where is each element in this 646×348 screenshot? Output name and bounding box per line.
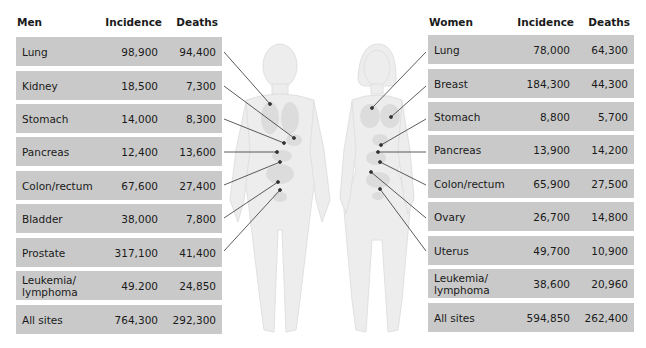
site-name: Uterus: [434, 245, 469, 257]
table-row: Bladder 38,000 7,800: [16, 204, 222, 233]
deaths-value: 44,300: [591, 78, 628, 90]
table-row: Ovary 26,700 14,800: [428, 202, 634, 231]
site-name: Lung: [434, 44, 460, 56]
site-name: All sites: [434, 312, 475, 324]
table-row-total: All sites 594,850 262,400: [428, 303, 634, 332]
incidence-value: 594,850: [527, 312, 570, 324]
incidence-value: 67,600: [121, 180, 158, 192]
site-name: Colon/rectum: [434, 178, 505, 190]
site-name: Colon/rectum: [22, 180, 93, 192]
women-header-site: Women: [429, 16, 473, 28]
site-name: Bladder: [22, 213, 63, 225]
site-name: Pancreas: [22, 146, 69, 158]
women-table-header: Women Incidence Deaths: [428, 16, 634, 32]
incidence-value: 98,900: [121, 46, 158, 58]
site-name: Leukemia/ lymphoma: [434, 272, 494, 296]
table-row: Lung 78,000 64,300: [428, 35, 634, 64]
deaths-value: 27,400: [179, 180, 216, 192]
deaths-value: 262,400: [585, 312, 628, 324]
table-row: Stomach 14,000 8,300: [16, 104, 222, 133]
site-name: Prostate: [22, 247, 65, 259]
female-figure: [340, 44, 414, 332]
male-figure: [230, 44, 330, 332]
table-row: Pancreas 12,400 13,600: [16, 137, 222, 166]
deaths-value: 5,700: [598, 111, 628, 123]
table-row: Pancreas 13,900 14,200: [428, 135, 634, 164]
deaths-value: 24,850: [179, 280, 216, 292]
site-name: Pancreas: [434, 144, 481, 156]
deaths-value: 94,400: [179, 46, 216, 58]
site-name: Breast: [434, 78, 468, 90]
incidence-value: 13,900: [533, 144, 570, 156]
incidence-value: 78,000: [533, 44, 570, 56]
table-row: Prostate 317,100 41,400: [16, 238, 222, 267]
site-name: Stomach: [22, 113, 68, 125]
incidence-value: 184,300: [527, 78, 570, 90]
site-name: Kidney: [22, 80, 58, 92]
site-name: All sites: [22, 314, 63, 326]
women-header-deaths: Deaths: [588, 16, 630, 28]
incidence-value: 26,700: [533, 211, 570, 223]
site-name: Ovary: [434, 211, 465, 223]
table-row: Colon/rectum 67,600 27,400: [16, 171, 222, 200]
deaths-value: 7,800: [186, 213, 216, 225]
deaths-value: 8,300: [186, 113, 216, 125]
incidence-value: 8,800: [540, 111, 570, 123]
incidence-value: 18,500: [121, 80, 158, 92]
table-row: Uterus 49,700 10,900: [428, 236, 634, 265]
men-table-header: Men Incidence Deaths: [16, 16, 222, 32]
table-row: Lung 98,900 94,400: [16, 37, 222, 66]
site-name: Leukemia/ lymphoma: [22, 274, 82, 298]
men-header-site: Men: [17, 16, 42, 28]
site-name: Lung: [22, 46, 48, 58]
table-row: Colon/rectum 65,900 27,500: [428, 169, 634, 198]
men-header-incidence: Incidence: [105, 16, 162, 28]
men-header-deaths: Deaths: [176, 16, 218, 28]
deaths-value: 64,300: [591, 44, 628, 56]
table-row: Leukemia/ lymphoma 49.200 24,850: [16, 271, 222, 300]
deaths-value: 14,800: [591, 211, 628, 223]
table-row: Stomach 8,800 5,700: [428, 102, 634, 131]
deaths-value: 292,300: [173, 314, 216, 326]
deaths-value: 13,600: [179, 146, 216, 158]
deaths-value: 14,200: [591, 144, 628, 156]
table-row-total: All sites 764,300 292,300: [16, 305, 222, 334]
incidence-value: 764,300: [115, 314, 158, 326]
deaths-value: 20,960: [591, 278, 628, 290]
deaths-value: 41,400: [179, 247, 216, 259]
table-row: Breast 184,300 44,300: [428, 69, 634, 98]
women-header-incidence: Incidence: [517, 16, 574, 28]
incidence-value: 49.200: [121, 280, 158, 292]
deaths-value: 27,500: [591, 178, 628, 190]
incidence-value: 12,400: [121, 146, 158, 158]
incidence-value: 65,900: [533, 178, 570, 190]
table-row: Kidney 18,500 7,300: [16, 71, 222, 100]
incidence-value: 14,000: [121, 113, 158, 125]
site-name: Stomach: [434, 111, 480, 123]
incidence-value: 49,700: [533, 245, 570, 257]
incidence-value: 317,100: [115, 247, 158, 259]
deaths-value: 10,900: [591, 245, 628, 257]
table-row: Leukemia/ lymphoma 38,600 20,960: [428, 269, 634, 298]
incidence-value: 38,600: [533, 278, 570, 290]
deaths-value: 7,300: [186, 80, 216, 92]
incidence-value: 38,000: [121, 213, 158, 225]
